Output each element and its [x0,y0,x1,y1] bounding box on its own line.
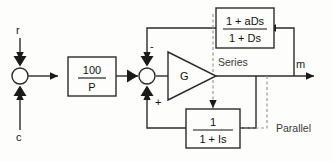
amplifier-label: G [180,70,189,82]
annotation-label-series: Series [218,56,248,68]
summing-junction-right-bottom-arrow [141,86,154,97]
summing-junction-left-bottom-arrow [14,86,27,97]
wire-parallel-to-sum-right [147,92,186,128]
summing-junction-left-top-arrow [14,56,27,67]
block-diagram-canvas: 100 P G 1 + aDs 1 + Ds 1 1 + Is r c m S [0,0,332,162]
proportional-gain-block[interactable]: 100 P [68,57,116,96]
gain-block-denominator: P [88,81,95,93]
block-diagram-svg: 100 P G 1 + aDs 1 + Ds 1 1 + Is r c m S [0,0,332,162]
series-compensator-numerator: 1 + aDs [226,15,265,27]
summing-junction-right[interactable] [127,56,155,96]
signal-label-c: c [16,131,22,143]
series-compensator-denominator: 1 + Ds [229,32,262,44]
summing-junction-left[interactable] [12,56,28,96]
amplifier-triangle[interactable]: G [168,52,216,100]
annotation-label-parallel: Parallel [276,122,311,134]
gain-block-numerator: 100 [83,64,101,76]
signal-label-m: m [296,58,305,70]
signal-label-r: r [16,24,20,36]
sum-right-plus-sign: + [155,96,161,108]
summing-junction-right-top-arrow [141,56,154,67]
parallel-feedback-numerator: 1 [210,116,216,128]
summing-junction-right-left-arrow [127,70,138,83]
parallel-feedback-denominator: 1 + Is [199,133,227,145]
parallel-feedback-block[interactable]: 1 1 + Is [186,109,240,148]
wire-series-to-sum-right [147,28,216,60]
series-compensator-block[interactable]: 1 + aDs 1 + Ds [216,8,274,48]
sum-right-minus-sign: - [150,40,154,52]
